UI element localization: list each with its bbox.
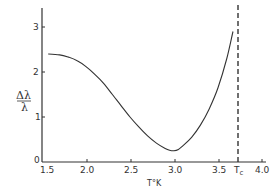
x-tick-label: 2.0 — [80, 165, 95, 175]
x-tick-label: 4.0 — [255, 165, 270, 175]
x-tick-label: 3.0 — [168, 165, 183, 175]
y-tick-label: 3 — [33, 22, 39, 32]
y-tick-label: 1 — [35, 112, 41, 122]
y-tick-label: 2 — [33, 67, 39, 77]
x-axis-title: T°K — [146, 179, 162, 188]
y-axis-title-denominator: λ — [21, 101, 28, 114]
x-tick-label: 3.5 — [212, 165, 226, 175]
tc-label: Tc — [233, 165, 244, 177]
y-tick-label: 0 — [34, 155, 40, 165]
data-curve — [48, 32, 233, 151]
chart: 3 2 1 0 1.5 2.0 2.5 3.0 3.5 4.0 Tc T°K Δ… — [0, 0, 278, 188]
x-tick-label: 1.5 — [40, 165, 54, 175]
x-tick-label: 2.5 — [124, 165, 138, 175]
